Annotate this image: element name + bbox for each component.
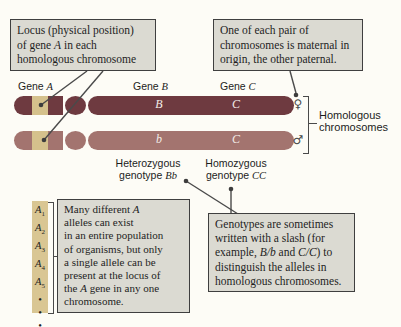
allele-strip-bracket — [48, 202, 54, 314]
homologous-bracket-connector — [309, 123, 317, 124]
allele-c-label: C — [226, 132, 246, 147]
locus-highlight — [32, 131, 48, 150]
genotype-notation-callout-box: Genotypes are sometimeswritten with a sl… — [208, 213, 355, 292]
locus-callout-box: Locus (physical position)of gene A in ea… — [10, 19, 156, 71]
long-arm — [88, 131, 294, 150]
centromere — [65, 96, 86, 115]
many-alleles-callout-box: Many different Aalleles can existin an e… — [57, 199, 190, 313]
homologous-chromosomes-label: Homologouschromosomes — [319, 110, 388, 133]
chromosome-paternal: b C — [14, 131, 294, 150]
homologous-bracket — [303, 96, 309, 154]
centromere — [65, 131, 86, 150]
gene-c-label: Gene C — [220, 80, 256, 92]
allele-strip: A1A2A3A4A5••• — [32, 201, 48, 313]
maternal-origin-callout-box: One of each pair ofchromosomes is matern… — [213, 19, 363, 71]
homozygous-marker-dot — [229, 187, 234, 192]
homozygous-genotype-label: Homozygousgenotype CC — [197, 158, 275, 181]
chromosome-maternal: B C — [14, 96, 294, 115]
pointer-line-heterozygous — [186, 181, 238, 214]
allele-b-label: b — [149, 132, 169, 147]
figure-canvas: Locus (physical position)of gene A in ea… — [0, 0, 401, 327]
gene-a-label: Gene A — [18, 80, 53, 92]
heterozygous-genotype-label: Heterozygousgenotype Bb — [108, 158, 188, 181]
gene-b-label: Gene B — [133, 80, 168, 92]
pointer-line-maternal-origin — [290, 71, 296, 93]
locus-highlight — [32, 96, 48, 115]
allele-c-label: C — [226, 97, 246, 112]
long-arm — [88, 96, 294, 115]
allele-b-label: B — [149, 97, 169, 112]
